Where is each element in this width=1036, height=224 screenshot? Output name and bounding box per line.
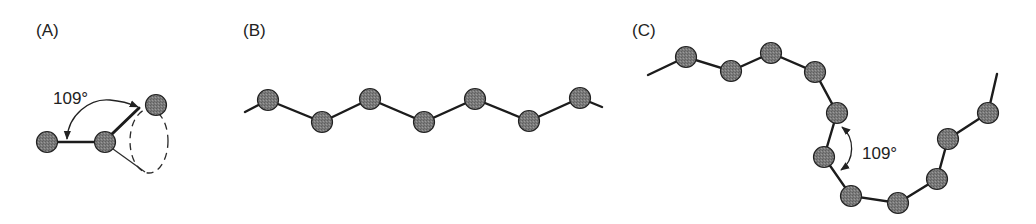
atom-circle — [927, 169, 948, 190]
cone-edge-line — [113, 149, 145, 172]
atom-circle — [414, 112, 435, 133]
bond-angle-label: 109° — [862, 144, 897, 163]
atom-circle — [37, 132, 58, 153]
bond-angle-label: 109° — [53, 89, 88, 108]
atom-circle — [95, 132, 116, 153]
panel-b-label: (B) — [243, 21, 266, 40]
atom-circle — [978, 103, 999, 124]
polymer-chain-figure: (A) 109° (B) (C) 109° — [0, 0, 1036, 224]
atom-circle — [570, 88, 591, 109]
atom-circle — [721, 61, 742, 82]
rotation-cone-ellipse — [130, 109, 168, 173]
atom-circle — [805, 62, 826, 83]
atom-circle — [146, 95, 167, 116]
atom-circle — [360, 89, 381, 110]
panel-a-bond-angle: (A) 109° — [36, 21, 168, 173]
atom-circle — [465, 89, 486, 110]
atom-circle — [827, 103, 848, 124]
atom-circle — [761, 43, 782, 64]
atom-circle — [519, 111, 540, 132]
bond-angle-arc-arrow — [841, 127, 852, 170]
diagram-canvas: (A) 109° (B) (C) 109° — [0, 0, 1036, 224]
atom-circle — [814, 147, 835, 168]
atom-circle — [676, 47, 697, 68]
panel-c-label: (C) — [632, 21, 656, 40]
atom-circle — [938, 129, 959, 150]
atom-circle — [258, 90, 279, 111]
panel-c-atoms — [676, 43, 999, 214]
panel-b-atoms — [258, 88, 591, 133]
atom-circle — [888, 193, 909, 214]
panel-a-label: (A) — [36, 21, 59, 40]
panel-b-extended-chain: (B) — [243, 21, 602, 133]
atom-circle — [312, 112, 333, 133]
panel-c-random-coil: (C) 109° — [632, 21, 999, 214]
bond-line — [112, 108, 139, 134]
atom-circle — [841, 186, 862, 207]
